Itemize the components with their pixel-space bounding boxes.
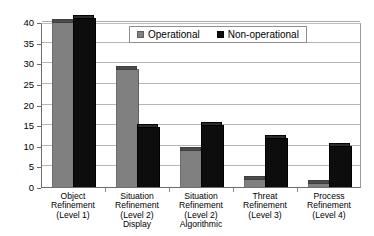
y-tick-label-15: 15 [8,121,34,130]
bar-top-face [329,143,350,147]
y-tick-label-0: 0 [8,183,34,192]
bar-top-face [201,122,222,126]
bar-face [329,146,352,187]
bar-top-face [137,124,158,128]
non-operational-swatch [217,31,224,38]
bar-top-face [244,176,265,180]
bar-face [265,138,288,188]
x-category-label-4: ProcessRefinement(Level 4) [291,192,367,220]
bar-top-face [265,135,286,139]
bar-face [73,18,96,187]
bar-face [244,179,267,187]
y-tick-label-20: 20 [8,101,34,110]
bar-chart: 4035302520151050 Operational Non-operati… [0,0,374,236]
plot-area: Operational Non-operational [41,23,361,188]
bar-top-face [180,147,201,151]
y-tick-mark-0 [37,188,41,189]
bar-non-operational-4 [329,146,350,187]
legend-item-non-operational: Non-operational [217,29,299,40]
bar-face [116,69,139,187]
y-tick-label-35: 35 [8,39,34,48]
operational-swatch [137,31,144,38]
bar-non-operational-0 [73,18,94,187]
x-category-label-line: Algorithmic [163,220,239,229]
bar-operational-0 [52,22,73,187]
bar-non-operational-2 [201,125,222,187]
bar-top-face [73,15,94,19]
legend-label-operational: Operational [148,29,200,40]
y-tick-label-5: 5 [8,162,34,171]
y-tick-label-30: 30 [8,59,34,68]
x-category-label-line: (Level 4) [291,211,367,220]
bar-face [201,125,224,187]
y-tick-label-25: 25 [8,80,34,89]
y-tick-label-10: 10 [8,142,34,151]
bar-non-operational-3 [265,138,286,188]
bar-non-operational-1 [137,127,158,187]
bar-operational-4 [308,183,329,187]
bar-operational-3 [244,179,265,187]
bar-top-face [52,19,73,23]
bar-operational-1 [116,69,137,187]
legend-item-operational: Operational [137,29,200,40]
bar-face [52,22,75,187]
chart-legend: Operational Non-operational [129,26,307,43]
bar-face [137,127,160,187]
bar-top-face [308,180,329,184]
bar-face [180,150,203,187]
y-tick-label-40: 40 [8,18,34,27]
legend-label-non-operational: Non-operational [228,29,299,40]
bar-top-face [116,66,137,70]
bar-operational-2 [180,150,201,187]
